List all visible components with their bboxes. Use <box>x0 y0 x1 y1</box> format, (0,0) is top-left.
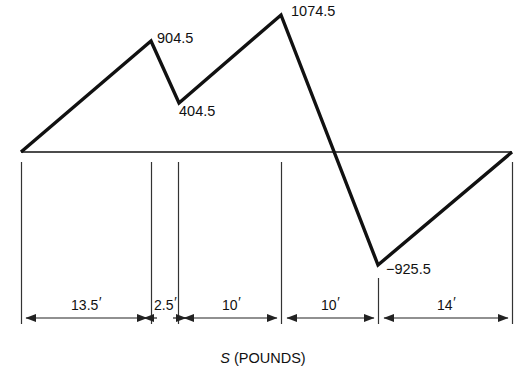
dimension-label-14-value: 14 <box>437 297 453 313</box>
dimension-label-10-b-value: 10 <box>321 297 337 313</box>
dimension-label-10-a-value: 10 <box>222 297 238 313</box>
value-label-904-5: 904.5 <box>157 30 193 46</box>
value-label-404-5: 404.5 <box>179 103 215 119</box>
value-label-1074-5: 1074.5 <box>291 3 335 19</box>
dimension-label-10-b-unit: ′ <box>336 294 339 310</box>
dimension-label-10-a-unit: ′ <box>237 294 240 310</box>
dimension-label-2-5: 2.5′ <box>143 294 187 313</box>
dimension-label-10-b: 10′ <box>294 294 366 313</box>
dimension-label-13-5-unit: ′ <box>98 294 101 310</box>
dimension-label-14-unit: ′ <box>452 294 455 310</box>
caption-symbol: S <box>220 350 230 366</box>
shear-force-diagram <box>0 0 526 380</box>
caption-units: (POUNDS) <box>234 350 306 366</box>
dimension-label-14: 14′ <box>410 294 482 313</box>
dimension-label-2-5-unit: ′ <box>173 294 176 310</box>
value-label-925-5: −925.5 <box>386 261 431 277</box>
dimension-label-13-5-value: 13.5 <box>71 297 98 313</box>
dimension-label-2-5-value: 2.5 <box>154 297 173 313</box>
figure-caption: S (POUNDS) <box>0 350 526 366</box>
dimension-label-10-a: 10′ <box>195 294 267 313</box>
figure-background <box>0 0 526 380</box>
dimension-label-13-5: 13.5′ <box>41 294 131 313</box>
